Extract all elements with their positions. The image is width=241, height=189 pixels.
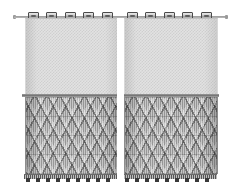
rod-end-cap-right-icon bbox=[225, 15, 228, 19]
tassel-icon bbox=[155, 178, 159, 182]
tassel-icon bbox=[66, 178, 70, 182]
right-panel-sheer-mesh-section bbox=[124, 18, 218, 95]
right-panel-tassel-row bbox=[123, 178, 217, 183]
left-panel-sheer-mesh-section bbox=[25, 18, 119, 95]
tassel-icon bbox=[76, 178, 80, 182]
tassel-icon bbox=[195, 178, 199, 182]
tassel-icon bbox=[46, 178, 50, 182]
tassel-icon bbox=[56, 178, 60, 182]
left-panel-lattice-shading bbox=[26, 97, 118, 174]
left-panel-sheer-shading bbox=[26, 19, 118, 95]
right-panel-sheer-shading bbox=[125, 19, 217, 95]
right-curtain-panel[interactable] bbox=[124, 18, 216, 182]
left-curtain-panel[interactable] bbox=[25, 18, 117, 182]
tassel-icon bbox=[86, 178, 90, 182]
curtain-illustration bbox=[0, 0, 241, 189]
tassel-icon bbox=[26, 178, 30, 182]
right-panel-lattice-shading bbox=[125, 97, 217, 174]
tassel-icon bbox=[106, 178, 110, 182]
tassel-icon bbox=[96, 178, 100, 182]
tassel-icon bbox=[125, 178, 129, 182]
tassel-icon bbox=[185, 178, 189, 182]
tassel-icon bbox=[165, 178, 169, 182]
left-panel-tassel-row bbox=[24, 178, 118, 183]
center-gap bbox=[117, 18, 124, 182]
tassel-icon bbox=[205, 178, 209, 182]
left-panel-lattice-section bbox=[25, 97, 119, 174]
tassel-icon bbox=[145, 178, 149, 182]
right-panel-lattice-section bbox=[124, 97, 218, 174]
tassel-icon bbox=[135, 178, 139, 182]
tassel-icon bbox=[175, 178, 179, 182]
tassel-icon bbox=[36, 178, 40, 182]
